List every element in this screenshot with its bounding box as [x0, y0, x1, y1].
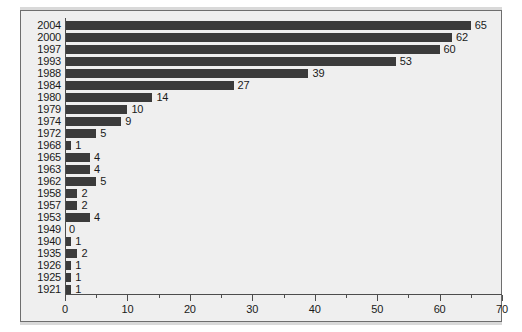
bar: [65, 93, 152, 102]
bar-track: 0: [65, 224, 512, 236]
bar: [65, 69, 308, 78]
bar-row: 19251: [30, 272, 512, 284]
bar-track: 53: [65, 56, 512, 68]
bar-category-label: 1925: [30, 271, 61, 283]
bar: [65, 33, 452, 42]
bar-category-label: 1997: [30, 43, 61, 55]
bar-row: 198014: [30, 92, 512, 104]
bar-track: 5: [65, 128, 512, 140]
bar-value-label: 1: [75, 235, 81, 247]
bar-track: 1: [65, 236, 512, 248]
bar-row: 19261: [30, 260, 512, 272]
bar: [65, 105, 127, 114]
x-axis-tick-label: 0: [53, 303, 77, 315]
x-axis-tick-major: [190, 295, 191, 301]
bar-track: 2: [65, 200, 512, 212]
bar-row: 19352: [30, 248, 512, 260]
bar: [65, 189, 77, 198]
bar-category-label: 1993: [30, 55, 61, 67]
bar-value-label: 14: [156, 91, 168, 103]
bar: [65, 81, 234, 90]
bar: [65, 165, 90, 174]
bar-track: 4: [65, 212, 512, 224]
bar-track: 65: [65, 20, 512, 32]
bar-category-label: 1958: [30, 187, 61, 199]
x-axis-tick-label: 70: [490, 303, 514, 315]
bar-track: 2: [65, 188, 512, 200]
bar-category-label: 1935: [30, 247, 61, 259]
bar-track: 4: [65, 164, 512, 176]
bar-category-label: 1974: [30, 115, 61, 127]
bar-category-label: 1979: [30, 103, 61, 115]
bar: [65, 213, 90, 222]
x-axis-tick-minor: [471, 295, 472, 298]
bar: [65, 45, 440, 54]
bar-category-label: 1949: [30, 223, 61, 235]
bar-category-label: 1968: [30, 139, 61, 151]
bar-category-label: 1988: [30, 67, 61, 79]
bar-value-label: 27: [238, 79, 250, 91]
bar-track: 10: [65, 104, 512, 116]
bar-category-label: 1965: [30, 151, 61, 163]
x-axis-tick-label: 50: [365, 303, 389, 315]
bar-row: 19681: [30, 140, 512, 152]
bar-value-label: 5: [100, 175, 106, 187]
bar-row: 200465: [30, 20, 512, 32]
bar-value-label: 60: [444, 43, 456, 55]
bar-value-label: 0: [69, 223, 75, 235]
bar-row: 19490: [30, 224, 512, 236]
bar-value-label: 5: [100, 127, 106, 139]
bar-category-label: 2000: [30, 31, 61, 43]
bar-track: 1: [65, 272, 512, 284]
bar-track: 1: [65, 260, 512, 272]
x-axis-tick-minor: [96, 295, 97, 298]
bar-value-label: 53: [400, 55, 412, 67]
bar-value-label: 4: [94, 211, 100, 223]
bar: [65, 57, 396, 66]
bar: [65, 153, 90, 162]
bar-value-label: 2: [81, 199, 87, 211]
bar-category-label: 1926: [30, 259, 61, 271]
x-axis-tick-major: [127, 295, 128, 301]
bar-category-label: 1980: [30, 91, 61, 103]
bar-category-label: 1957: [30, 199, 61, 211]
bar-value-label: 4: [94, 163, 100, 175]
bar-row: 19572: [30, 200, 512, 212]
bar: [65, 117, 121, 126]
bar-value-label: 39: [312, 67, 324, 79]
bar-category-label: 1984: [30, 79, 61, 91]
bar-category-label: 1921: [30, 283, 61, 295]
x-axis-tick-label: 20: [178, 303, 202, 315]
bar-row: 19654: [30, 152, 512, 164]
bar-category-label: 1972: [30, 127, 61, 139]
bar-value-label: 65: [475, 19, 487, 31]
x-axis-tick-major: [440, 295, 441, 301]
bar-category-label: 1953: [30, 211, 61, 223]
x-axis-tick-minor: [284, 295, 285, 298]
x-axis-tick-minor: [159, 295, 160, 298]
x-axis-tick-major: [315, 295, 316, 301]
bar-value-label: 10: [131, 103, 143, 115]
bar-row: 19582: [30, 188, 512, 200]
plot-frame: 2004652000621997601993531988391984271980…: [20, 10, 502, 322]
x-axis-tick-major: [502, 295, 503, 301]
bar-row: 197910: [30, 104, 512, 116]
x-axis-tick-major: [377, 295, 378, 301]
bar-value-label: 9: [125, 115, 131, 127]
bar-row: 19534: [30, 212, 512, 224]
bar-track: 4: [65, 152, 512, 164]
bar-track: 60: [65, 44, 512, 56]
bar-category-label: 1963: [30, 163, 61, 175]
bar-value-label: 2: [81, 247, 87, 259]
bar-value-label: 1: [75, 271, 81, 283]
bar-row: 19401: [30, 236, 512, 248]
bar-category-label: 1962: [30, 175, 61, 187]
x-axis-tick-minor: [408, 295, 409, 298]
bar-row: 199353: [30, 56, 512, 68]
bar-track: 39: [65, 68, 512, 80]
bar-row: 19725: [30, 128, 512, 140]
y-axis-line: [65, 18, 66, 294]
bar-track: 9: [65, 116, 512, 128]
bar-track: 27: [65, 80, 512, 92]
bar-row: 19625: [30, 176, 512, 188]
